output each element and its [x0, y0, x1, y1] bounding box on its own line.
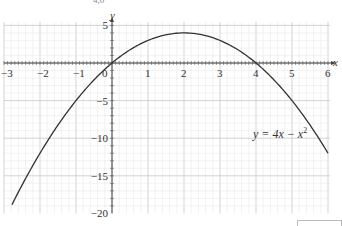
y-axis-name: y [109, 9, 115, 21]
grid [4, 22, 330, 213]
parabola-line [12, 33, 328, 205]
tick-labels: −3−2−101234565−5−10−15−20 [1, 19, 331, 219]
x-tick-label: 1 [145, 67, 151, 79]
equation-text: y = 4x − x [252, 127, 304, 141]
y-tick-label: −5 [96, 95, 108, 107]
x-tick-label: 6 [325, 67, 331, 79]
axes [4, 17, 336, 213]
curve [12, 33, 328, 205]
y-tick-label: −20 [91, 207, 109, 219]
y-tick-label: 5 [103, 19, 109, 31]
x-tick-label: −2 [37, 67, 49, 79]
y-tick-label: −15 [91, 170, 109, 182]
corner-box [297, 220, 342, 226]
x-tick-label: 3 [217, 67, 223, 79]
x-tick-label: 0 [102, 67, 108, 79]
x-tick-label: −1 [73, 67, 85, 79]
x-tick-label: 2 [181, 67, 187, 79]
equation-label: y = 4x − x2 [252, 126, 307, 141]
y-tick-label: −10 [91, 132, 109, 144]
x-axis-name: x [332, 56, 338, 68]
top-clipped-text: 4,0 [93, 0, 105, 5]
equation-exponent: 2 [303, 126, 307, 135]
parabola-chart: −3−2−101234565−5−10−15−20 4,0 y x y = 4x… [0, 0, 342, 226]
x-tick-label: −3 [1, 67, 13, 79]
x-tick-label: 5 [289, 67, 295, 79]
x-tick-label: 4 [253, 67, 259, 79]
